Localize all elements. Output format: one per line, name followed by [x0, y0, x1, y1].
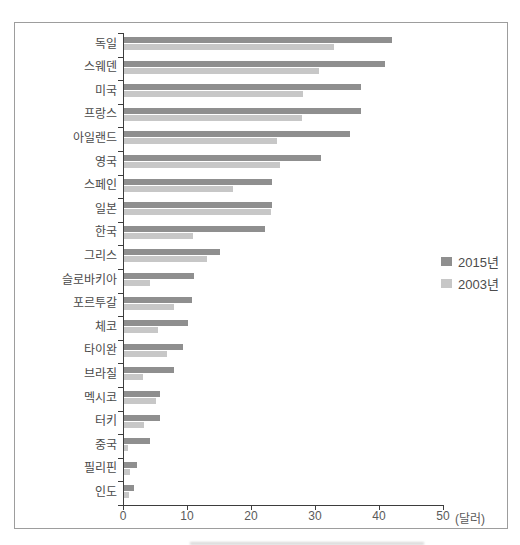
- y-axis-tick: [118, 175, 123, 176]
- bar-2015: [124, 226, 265, 232]
- bar-2015: [124, 202, 272, 208]
- category-label: 브라질: [14, 367, 117, 381]
- category-label: 필리핀: [14, 461, 117, 475]
- bar-2003: [124, 304, 174, 310]
- bar-2015: [124, 273, 194, 279]
- category-label: 아일랜드: [14, 131, 117, 145]
- bar-2015: [124, 438, 150, 444]
- legend-item-2015: 2015년: [441, 255, 499, 268]
- bar-2015: [124, 297, 192, 303]
- x-tick-label: 30: [295, 509, 335, 523]
- category-label: 인도: [14, 485, 117, 499]
- y-axis-tick: [118, 33, 123, 34]
- y-axis-tick: [118, 411, 123, 412]
- y-axis-tick: [118, 222, 123, 223]
- category-label: 체코: [14, 320, 117, 334]
- bar-2015: [124, 391, 160, 397]
- bar-2003: [124, 162, 280, 168]
- y-axis-tick: [118, 293, 123, 294]
- x-tick-label: 0: [103, 509, 143, 523]
- category-label: 타이완: [14, 343, 117, 357]
- bar-2015: [124, 155, 321, 161]
- y-axis-tick: [118, 316, 123, 317]
- y-axis-tick: [118, 387, 123, 388]
- x-tick-label: 20: [231, 509, 271, 523]
- category-label: 포르투갈: [14, 296, 117, 310]
- y-axis-tick: [118, 434, 123, 435]
- bar-2003: [124, 492, 129, 498]
- category-label: 그리스: [14, 249, 117, 263]
- category-label: 스페인: [14, 178, 117, 192]
- bar-2003: [124, 68, 319, 74]
- bar-2015: [124, 485, 134, 491]
- y-axis-tick: [118, 151, 123, 152]
- bar-2015: [124, 249, 220, 255]
- bar-2015: [124, 108, 361, 114]
- y-axis-tick: [118, 127, 123, 128]
- bar-2003: [124, 445, 128, 451]
- x-axis-line: [123, 505, 444, 506]
- y-axis-tick: [118, 481, 123, 482]
- x-tick-label: 40: [359, 509, 399, 523]
- legend: 2015년 2003년: [441, 255, 499, 299]
- y-axis-tick: [118, 245, 123, 246]
- bar-2003: [124, 469, 130, 475]
- category-label: 슬로바키아: [14, 273, 117, 287]
- category-label: 독일: [14, 37, 117, 51]
- legend-item-2003: 2003년: [441, 277, 499, 290]
- bar-2003: [124, 115, 302, 121]
- bar-2003: [124, 44, 334, 50]
- legend-swatch-2015: [441, 257, 452, 266]
- y-axis-tick: [118, 363, 123, 364]
- category-label: 터키: [14, 414, 117, 428]
- bar-2003: [124, 233, 193, 239]
- category-label: 미국: [14, 84, 117, 98]
- legend-swatch-2003: [441, 279, 452, 288]
- chart-figure: 독일스웨덴미국프랑스아일랜드영국스페인일본한국그리스슬로바키아포르투갈체코타이완…: [0, 0, 520, 545]
- bar-2003: [124, 209, 271, 215]
- category-label: 한국: [14, 225, 117, 239]
- bar-2003: [124, 138, 277, 144]
- y-axis-tick: [118, 57, 123, 58]
- y-axis-tick: [118, 269, 123, 270]
- x-tick-label: 10: [167, 509, 207, 523]
- bar-2015: [124, 179, 272, 185]
- bar-2003: [124, 398, 156, 404]
- bar-2015: [124, 462, 137, 468]
- y-axis-line: [123, 33, 124, 505]
- bar-2003: [124, 327, 158, 333]
- category-label: 멕시코: [14, 391, 117, 405]
- bar-2015: [124, 131, 350, 137]
- category-label: 영국: [14, 155, 117, 169]
- bar-2015: [124, 415, 160, 421]
- bar-2003: [124, 256, 207, 262]
- category-label: 중국: [14, 438, 117, 452]
- bar-2003: [124, 91, 303, 97]
- bar-2015: [124, 320, 188, 326]
- y-axis-tick: [118, 458, 123, 459]
- y-axis-tick: [118, 340, 123, 341]
- bar-2015: [124, 61, 385, 67]
- legend-label-2015: 2015년: [458, 252, 499, 271]
- category-label: 일본: [14, 202, 117, 216]
- bar-2015: [124, 344, 183, 350]
- bar-2015: [124, 37, 392, 43]
- category-label: 스웨덴: [14, 60, 117, 74]
- bar-2003: [124, 422, 144, 428]
- y-axis-tick: [118, 198, 123, 199]
- legend-label-2003: 2003년: [458, 274, 499, 293]
- bar-2003: [124, 186, 233, 192]
- bar-2003: [124, 374, 143, 380]
- category-label: 프랑스: [14, 107, 117, 121]
- bar-2015: [124, 367, 174, 373]
- bar-2003: [124, 351, 167, 357]
- y-axis-tick: [118, 80, 123, 81]
- x-axis-unit-label: (달러): [455, 509, 485, 526]
- bar-2015: [124, 84, 361, 90]
- y-axis-tick: [118, 104, 123, 105]
- bar-2003: [124, 280, 150, 286]
